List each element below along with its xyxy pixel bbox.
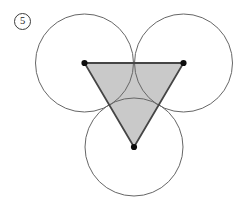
shaded-triangle-fill: [85, 63, 184, 147]
vertex-dot-left: [81, 60, 87, 66]
figure-canvas: 5: [0, 0, 246, 211]
vertex-dot-bottom: [131, 144, 137, 150]
vertex-dot-right: [180, 60, 186, 66]
geometry-svg: [0, 0, 246, 211]
